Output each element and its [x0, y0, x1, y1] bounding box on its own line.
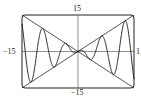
chart-plot — [0, 0, 141, 98]
y-min-label: −15 — [71, 89, 84, 97]
y-max-label: 15 — [73, 5, 81, 13]
x-max-label: 1 — [136, 48, 140, 56]
x-min-label: −15 — [3, 48, 16, 56]
